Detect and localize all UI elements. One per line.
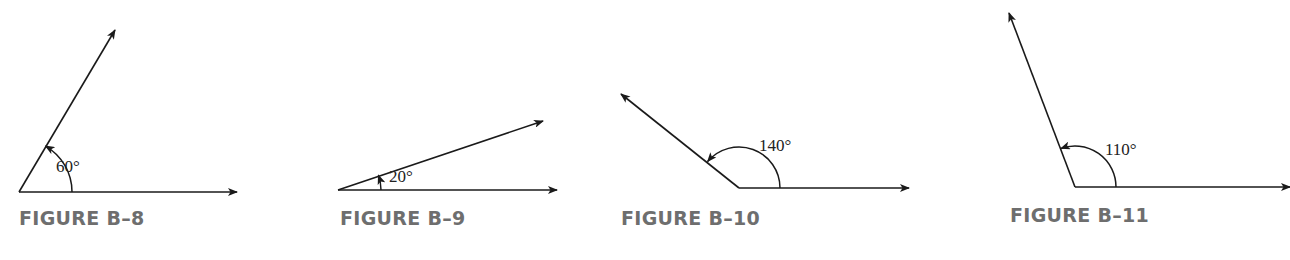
- terminal-ray-arrow: [621, 94, 739, 188]
- angle-label: 110°: [1105, 140, 1137, 159]
- angle-arc-arrow: [378, 175, 381, 190]
- angle-label: 140°: [759, 136, 791, 155]
- figure-b11-caption: FIGURE B–11: [1010, 204, 1149, 226]
- figure-b9-caption: FIGURE B–9: [340, 207, 466, 229]
- terminal-ray-arrow: [338, 121, 543, 190]
- figure-b8: 60°: [19, 30, 237, 192]
- figure-b11: 110°: [1009, 13, 1290, 187]
- angle-label: 60°: [56, 157, 80, 176]
- figure-b9: 20°: [338, 121, 557, 190]
- figure-b8-caption: FIGURE B–8: [19, 207, 145, 229]
- terminal-ray-arrow: [1009, 13, 1075, 187]
- figure-b10: 140°: [621, 94, 909, 188]
- angle-label: 20°: [389, 167, 413, 186]
- figure-b10-caption: FIGURE B–10: [621, 207, 760, 229]
